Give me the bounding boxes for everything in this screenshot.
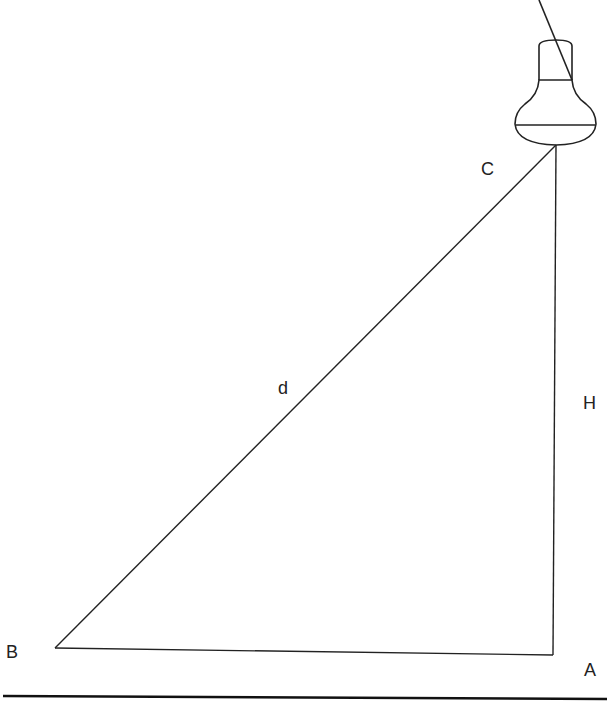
light-bulb-icon [515,0,596,145]
segment-d [55,145,556,648]
segment-BA [55,648,553,655]
diagram-canvas: C d H B A [0,0,615,704]
segment-H [553,145,556,655]
label-B: B [6,643,18,661]
label-A: A [584,661,596,679]
label-d: d [278,379,288,397]
label-C: C [481,160,494,178]
diagram-svg [0,0,615,704]
ground-line [3,696,607,699]
label-H: H [583,394,596,412]
triangle [55,145,556,655]
